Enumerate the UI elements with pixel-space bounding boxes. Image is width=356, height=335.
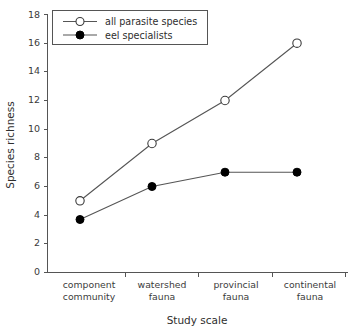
y-tick-label: 4 [34, 209, 40, 220]
x-axis-title: Study scale [167, 314, 228, 326]
data-point [148, 183, 156, 191]
legend-label: eel specialists [105, 30, 172, 41]
data-point [76, 216, 84, 224]
legend-marker-filled-circle-icon [76, 31, 84, 39]
x-tick-label-line2: fauna [223, 291, 249, 302]
y-tick-label: 10 [28, 123, 40, 134]
y-tick-label: 8 [34, 151, 40, 162]
y-tick-label: 18 [28, 9, 40, 20]
chart-legend: all parasite species eel specialists [53, 11, 208, 45]
y-tick-labels: 18 16 14 12 10 8 6 4 2 0 [28, 9, 40, 278]
x-tick-labels: component community watershed fauna prov… [63, 279, 336, 302]
y-tick-label: 16 [28, 37, 40, 48]
data-point [148, 139, 156, 147]
data-point [293, 39, 301, 47]
y-tick-label: 0 [34, 266, 40, 277]
series-line-eel-specialists [80, 172, 297, 219]
series-all-parasite-species [76, 39, 301, 205]
y-tick-label: 12 [28, 94, 40, 105]
y-tick-label: 14 [28, 65, 40, 76]
data-point [293, 168, 301, 176]
y-tick-label: 6 [34, 180, 40, 191]
data-point [221, 96, 229, 104]
x-tick-label-line2: fauna [149, 291, 175, 302]
series-line-all-parasite-species [80, 43, 297, 201]
y-axis-title: Species richness [4, 101, 16, 188]
line-chart: 18 16 14 12 10 8 6 4 2 0 component commu… [0, 0, 356, 335]
x-tick-marks [126, 273, 346, 277]
x-tick-label-line2: community [63, 291, 116, 302]
legend-label: all parasite species [105, 16, 197, 27]
x-tick-label-line1: provincial [213, 279, 258, 290]
x-tick-label-line1: component [63, 279, 116, 290]
data-point [221, 168, 229, 176]
chart-figure: 18 16 14 12 10 8 6 4 2 0 component commu… [0, 0, 356, 335]
x-tick-label-line2: fauna [297, 291, 323, 302]
x-tick-label-line1: watershed [138, 279, 187, 290]
x-tick-label-line1: continental [284, 279, 336, 290]
y-tick-marks [44, 15, 48, 273]
data-point [76, 197, 84, 205]
y-tick-label: 2 [34, 237, 40, 248]
legend-marker-open-circle-icon [76, 18, 84, 26]
